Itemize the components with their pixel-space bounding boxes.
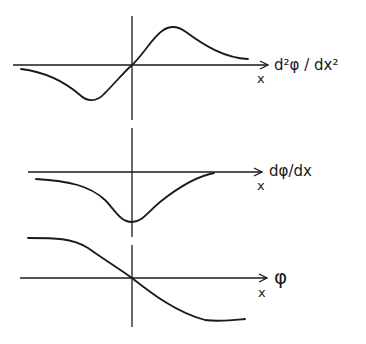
first-derivative-curve — [36, 173, 214, 222]
x-label: x — [257, 178, 265, 193]
y-label-potential: φ — [274, 265, 287, 289]
panel-second-derivative: d²φ / dx² x — [13, 27, 338, 100]
y-label-first-derivative: dφ/dx — [269, 162, 312, 180]
x-label: x — [257, 71, 265, 86]
potential-curve — [28, 238, 245, 321]
panel-potential: φ x — [20, 238, 287, 321]
diagram-canvas: d²φ / dx² x dφ/dx x φ x — [0, 0, 366, 344]
y-label-second-derivative: d²φ / dx² — [274, 56, 338, 74]
x-label: x — [258, 285, 266, 300]
panel-first-derivative: dφ/dx x — [28, 162, 312, 222]
second-derivative-curve — [21, 27, 248, 100]
